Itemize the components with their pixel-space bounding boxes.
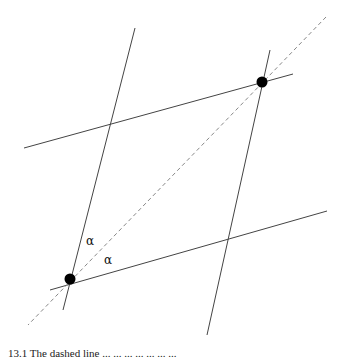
upper-right-vertex-point bbox=[257, 77, 268, 88]
right-line bbox=[207, 50, 270, 335]
lower-left-vertex-point bbox=[65, 274, 76, 285]
alpha-label-lower: α bbox=[104, 253, 112, 267]
left-line bbox=[63, 28, 135, 310]
figure-caption: 13.1 The dashed line ... ... ... ... ...… bbox=[0, 346, 343, 360]
upper-line bbox=[24, 74, 293, 148]
alpha-label-upper: α bbox=[86, 234, 94, 248]
lower-line bbox=[50, 211, 327, 290]
